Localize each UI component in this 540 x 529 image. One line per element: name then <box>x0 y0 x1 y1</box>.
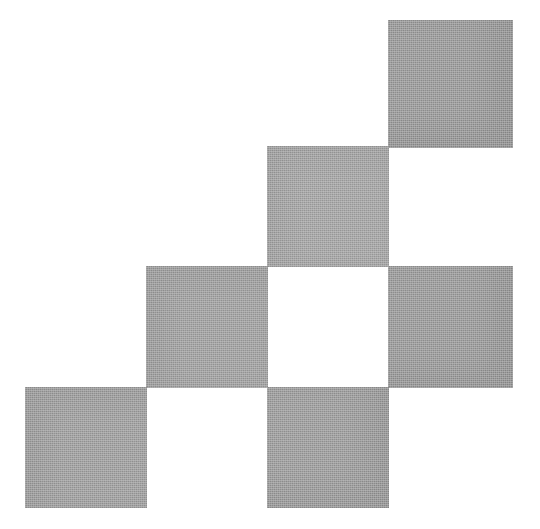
tile-bottom-middle <box>267 387 389 508</box>
pattern-canvas <box>0 0 540 529</box>
tile-middle-left <box>146 266 268 388</box>
tile-top-right <box>388 20 513 148</box>
tile-middle-right <box>388 266 513 388</box>
tile-upper-middle <box>267 146 389 267</box>
tile-bottom-left <box>25 387 147 508</box>
